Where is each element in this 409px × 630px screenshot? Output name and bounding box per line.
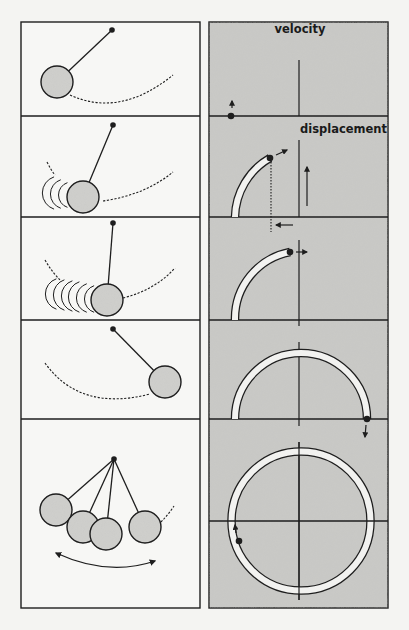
pivot-point [110, 122, 116, 128]
phase-state-point [228, 113, 235, 120]
pendulum-bob-texture [91, 519, 121, 549]
pendulum-bob-texture [68, 182, 98, 212]
pivot-point [111, 456, 117, 462]
displacement-axis-label: displacement [300, 122, 388, 136]
figure-canvas: velocity displacement [0, 0, 409, 630]
pivot-point [110, 326, 116, 332]
phase-state-point [236, 538, 243, 545]
pivot-point [110, 220, 116, 226]
pivot-point [109, 27, 115, 33]
pendulum-column [21, 22, 200, 608]
pendulum-bob-texture [130, 512, 160, 542]
pendulum-phase-space-figure: velocity displacement [0, 0, 409, 630]
pendulum-bob-texture [42, 67, 72, 97]
velocity-axis-label: velocity [275, 22, 326, 36]
phase-space-column: velocity displacement [209, 22, 388, 608]
phase-state-point [287, 249, 294, 256]
phase-state-point [267, 155, 274, 162]
pendulum-bob-texture [41, 495, 71, 525]
phase-state-point [364, 416, 371, 423]
pendulum-bob-texture [150, 367, 180, 397]
pendulum-bob-texture [92, 285, 122, 315]
